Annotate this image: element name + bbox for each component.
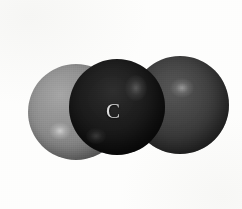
atom-label-carbon: C [106,101,121,122]
molecular-model-figure: C [0,0,242,209]
